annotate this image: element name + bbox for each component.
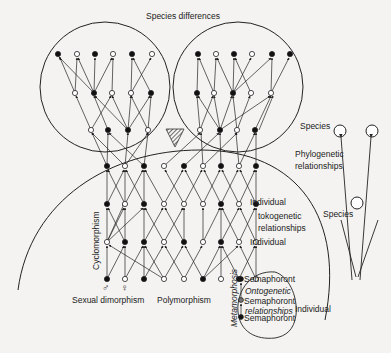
label-metamorphosis: Metamorphosis	[230, 269, 239, 327]
label-semaphoront-2: Semaphoront	[244, 297, 295, 306]
label-semaphoront-1: Semaphoront	[244, 275, 295, 284]
hatched-triangle-icon	[166, 129, 184, 147]
female-symbol-icon: ♀	[121, 283, 129, 293]
label-species-top: Species	[300, 122, 330, 131]
label-species-bottom: Species	[323, 210, 353, 219]
label-phylogenetic-relationships: relationships	[295, 162, 343, 171]
male-symbol-icon: ♂	[102, 283, 110, 293]
label-individual-1: Individual	[250, 198, 286, 207]
label-species-differences: Species differences	[146, 12, 220, 21]
label-polymorphism: Polymorphism	[157, 296, 211, 305]
hennig-semaphoront-diagram: Species differences Species Phylogenetic…	[0, 0, 391, 353]
label-phylogenetic: Phylogenetic	[295, 150, 344, 159]
label-tokogenetic-relationships: relationships	[258, 224, 306, 233]
label-sexual-dimorphism: Sexual dimorphism	[72, 296, 144, 305]
label-individual-2: Individual	[250, 238, 286, 247]
label-tokogenetic: tokogenetic	[258, 212, 301, 221]
species-node-bottom	[351, 197, 363, 209]
species-circle-left	[40, 22, 170, 152]
label-individual-3: Individual	[295, 305, 331, 314]
label-semaphoront-3: Semaphoront	[244, 314, 295, 323]
label-cyclomorphism: Cyclomorphism	[92, 211, 101, 270]
label-ontogenetic: Ontogenetic	[245, 287, 291, 296]
